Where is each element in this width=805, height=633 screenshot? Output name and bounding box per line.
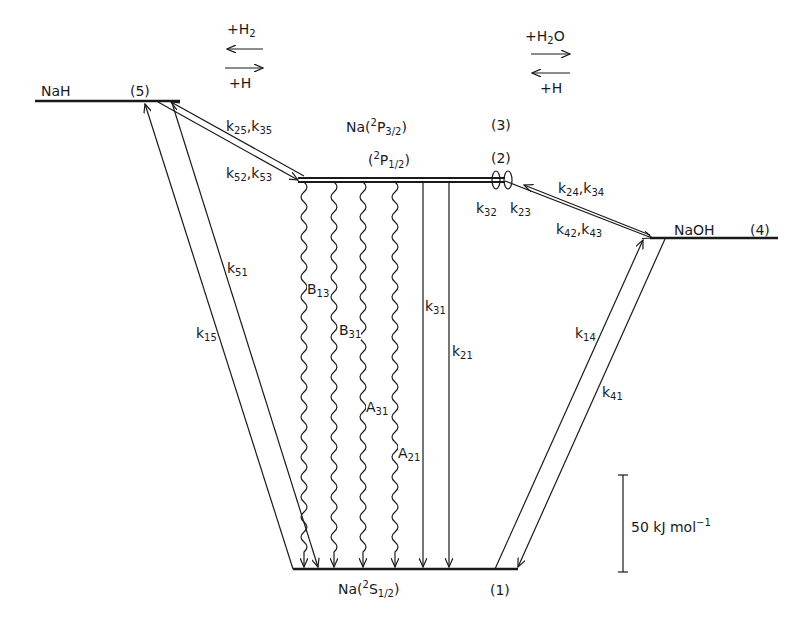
- rate-label-k14: k14: [575, 326, 596, 343]
- radiative-label-b13: B13: [307, 282, 329, 299]
- level-label-na-2p32: Na(2P3/2): [346, 118, 407, 137]
- reaction-label-left-h2: +H2: [227, 22, 256, 39]
- energy-level-diagram: [0, 0, 805, 633]
- rate-label-k23: k23: [510, 201, 531, 218]
- rate-label-k52-k53: k52,k53: [226, 166, 272, 183]
- scale-bar-label: 50 kJ mol−1: [631, 518, 711, 534]
- level-label-na-2p12: (2P1/2): [368, 151, 410, 170]
- level-label-na-2s12: Na(2S1/2): [338, 580, 399, 599]
- rate-label-k15: k15: [196, 326, 217, 343]
- wavy-arrow-b13: [301, 182, 307, 567]
- level-number-2: (2): [491, 151, 511, 165]
- radiative-label-a31: A31: [366, 400, 388, 417]
- level-number-5: (5): [130, 84, 150, 98]
- rate-label-k42-k43: k42,k43: [556, 222, 602, 239]
- level-number-1: (1): [490, 583, 510, 597]
- loop-k32: [492, 171, 500, 189]
- rate-label-k25-k35: k25,k35: [226, 119, 272, 136]
- loop-k23: [504, 171, 512, 189]
- radiative-label-b31: B31: [339, 323, 361, 340]
- reaction-label-left-h: +H: [229, 76, 251, 90]
- rate-label-k51: k51: [227, 261, 248, 278]
- rate-label-k32: k32: [476, 201, 497, 218]
- reaction-label-right-h: +H: [540, 81, 562, 95]
- wavy-arrow-a21: [392, 182, 398, 567]
- wavy-arrow-a31: [360, 182, 366, 567]
- reaction-label-right-h2o: +H2O: [525, 29, 565, 46]
- level-label-nah: NaH: [41, 84, 71, 98]
- level-number-4: (4): [750, 223, 770, 237]
- rate-label-k31: k31: [425, 299, 446, 316]
- rate-label-k21: k21: [452, 344, 473, 361]
- rate-label-k41: k41: [602, 385, 623, 402]
- level-label-naoh: NaOH: [674, 223, 715, 237]
- rate-label-k24-k34: k24,k34: [558, 181, 604, 198]
- level-number-3: (3): [491, 118, 511, 132]
- wavy-arrow-b31: [331, 182, 337, 567]
- arrow-k14: [495, 240, 643, 569]
- radiative-label-a21: A21: [398, 446, 420, 463]
